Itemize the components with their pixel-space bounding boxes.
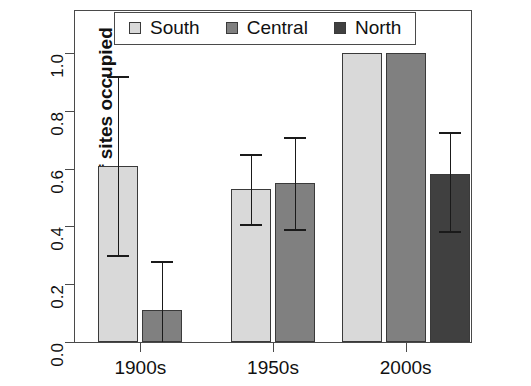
error-bar-cap-upper [284,137,306,139]
y-tick-label: 1.0 [48,54,68,78]
y-tick-0.2: 0.2 [65,284,74,285]
y-tick-label: 0.4 [48,227,68,251]
legend: SouthCentralNorth [114,12,416,45]
y-tick-0.6: 0.6 [65,169,74,170]
error-bar-cap-upper [439,132,461,134]
x-tick-1900s [140,343,141,352]
error-bar-line-south-1950s [251,154,252,223]
error-bar-line-central-1900s [162,261,163,342]
error-bar-cap-upper [240,154,262,156]
legend-item-south: South [129,17,200,39]
error-bar-line-north-2000s [450,132,451,230]
y-tick-1.0: 1.0 [65,53,74,54]
plot-area: Proportion of sites occupied 0.00.20.40.… [74,10,472,343]
y-tick-0.4: 0.4 [65,226,74,227]
bar-south-2000s [342,53,382,342]
legend-label: South [150,17,200,39]
legend-label: North [355,17,401,39]
error-bar-line-central-1950s [295,137,296,229]
y-tick-0.8: 0.8 [65,111,74,112]
error-bar-line-south-1900s [118,76,119,255]
legend-swatch-icon [226,22,238,34]
x-tick-1950s [273,343,274,352]
y-tick-label: 0.2 [48,285,68,309]
legend-item-north: North [334,17,401,39]
legend-swatch-icon [129,22,141,34]
caption-strip [0,376,531,386]
legend-swatch-icon [334,22,346,34]
legend-label: Central [247,17,308,39]
error-bar-cap-upper [107,76,129,78]
legend-item-central: Central [226,17,308,39]
chart-figure: Proportion of sites occupied 0.00.20.40.… [0,0,531,386]
bar-central-2000s [386,53,426,342]
y-tick-label: 0.8 [48,112,68,136]
error-bar-cap-upper [151,261,173,263]
error-bar-cap-lower [284,229,306,231]
y-tick-label: 0.0 [48,343,68,367]
y-tick-label: 0.6 [48,170,68,194]
error-bar-cap-lower [439,231,461,233]
x-tick-2000s [406,343,407,352]
error-bar-cap-lower [107,255,129,257]
y-tick-0.0: 0.0 [65,342,74,343]
error-bar-cap-lower [240,224,262,226]
